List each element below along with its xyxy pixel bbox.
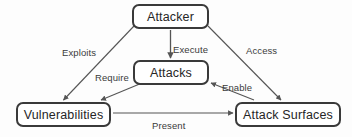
node-attack-surfaces[interactable]: Attack Surfaces: [235, 102, 341, 127]
edge-label-present: Present: [152, 120, 185, 131]
diagram-canvas: Attacker Attacks Vulnerabilities Attack …: [0, 0, 352, 137]
edge-label-exploits: Exploits: [62, 47, 96, 58]
node-attacks-label: Attacks: [150, 66, 192, 80]
node-attacks[interactable]: Attacks: [133, 60, 209, 85]
node-vulnerabilities-label: Vulnerabilities: [24, 108, 104, 122]
edge-label-execute: Execute: [173, 44, 208, 55]
edge-line-exploits: [64, 26, 135, 100]
node-attacker-label: Attacker: [147, 10, 194, 24]
node-attack-surfaces-label: Attack Surfaces: [243, 108, 333, 122]
edge-line-require: [101, 83, 142, 100]
edge-label-require: Require: [95, 72, 129, 83]
node-attacker[interactable]: Attacker: [132, 4, 209, 29]
node-vulnerabilities[interactable]: Vulnerabilities: [16, 102, 111, 127]
edge-label-access: Access: [246, 45, 277, 56]
edge-label-enable: Enable: [222, 82, 252, 93]
